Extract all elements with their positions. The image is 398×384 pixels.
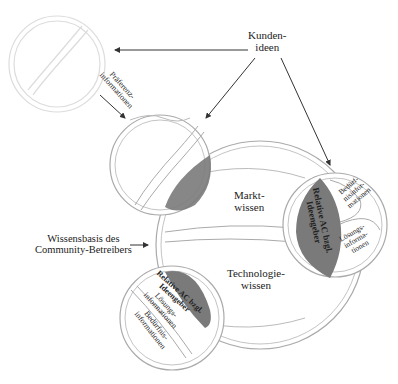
market-knowledge-label: Markt- wissen [234,190,265,213]
customer-ideas-label: Kunden- ideen [248,30,287,53]
knowledge-base-label: Wissensbasis des Community-Betreibers [35,233,132,255]
technology-knowledge-label: Technologie- wissen [227,268,285,291]
faded-circle [9,16,105,112]
